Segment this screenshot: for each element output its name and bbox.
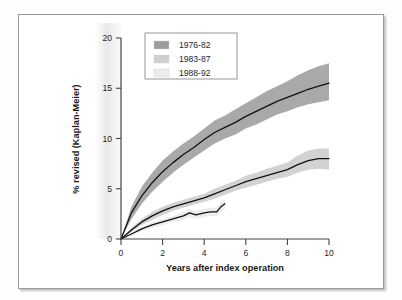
x-axis-ticks: 0246810	[119, 239, 334, 258]
legend-label-1988-92: 1988-92	[179, 68, 211, 78]
confidence-bands	[121, 63, 329, 239]
legend: 1976-821983-871988-92	[145, 33, 237, 79]
figure-frame: 05101520 0246810 % revised (Kaplan-Meier…	[18, 14, 384, 289]
x-tick-label-10: 10	[324, 248, 334, 258]
legend-swatch-1976-82	[154, 41, 169, 49]
y-tick-label-5: 5	[107, 184, 112, 194]
x-tick-label-2: 2	[160, 248, 165, 258]
x-tick-label-0: 0	[119, 248, 124, 258]
x-axis-label: Years after index operation	[166, 263, 284, 273]
x-tick-label-8: 8	[285, 248, 290, 258]
y-tick-label-0: 0	[107, 234, 112, 244]
y-tick-label-20: 20	[102, 33, 112, 43]
figure-root: 05101520 0246810 % revised (Kaplan-Meier…	[0, 0, 402, 300]
y-tick-label-10: 10	[102, 134, 112, 144]
scan-shading-artifact	[95, 23, 121, 239]
x-tick-label-6: 6	[243, 248, 248, 258]
legend-swatch-1988-92	[154, 69, 169, 77]
kaplan-meier-chart: 05101520 0246810 % revised (Kaplan-Meier…	[19, 15, 383, 288]
legend-label-1976-82: 1976-82	[179, 40, 211, 50]
x-tick-label-4: 4	[202, 248, 207, 258]
y-tick-label-15: 15	[102, 83, 112, 93]
legend-label-1983-87: 1983-87	[179, 54, 211, 64]
y-axis-label: % revised (Kaplan-Meier)	[71, 84, 81, 193]
legend-swatch-1983-87	[154, 55, 169, 63]
